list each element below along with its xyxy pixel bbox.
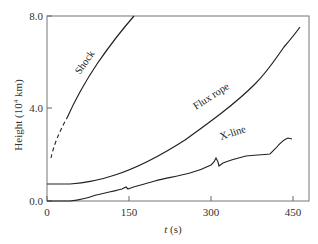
x-tick-label: 0 bbox=[44, 206, 50, 218]
shock-curve-dashed bbox=[51, 118, 67, 158]
shock-label: Shock bbox=[73, 48, 97, 76]
x-line-curve bbox=[47, 138, 292, 201]
y-axis: 0.0 4.0 8.0 bbox=[29, 10, 52, 207]
x-line-label: X-line bbox=[218, 123, 247, 142]
y-tick-label: 0.0 bbox=[29, 195, 43, 207]
x-tick-label: 450 bbox=[285, 206, 302, 218]
x-tick-label: 150 bbox=[121, 206, 138, 218]
plot-frame bbox=[47, 16, 309, 201]
flux-rope-label: Flux rope bbox=[191, 80, 231, 111]
y-tick-label: 8.0 bbox=[29, 10, 43, 22]
height-time-chart: 0.0 4.0 8.0 0 150 300 450 t (s) Height (… bbox=[0, 0, 318, 244]
x-axis-title: t (s) bbox=[164, 223, 182, 236]
x-tick-label: 300 bbox=[203, 206, 220, 218]
y-tick-label: 4.0 bbox=[29, 102, 43, 114]
y-axis-title: Height (104 km) bbox=[12, 79, 25, 151]
